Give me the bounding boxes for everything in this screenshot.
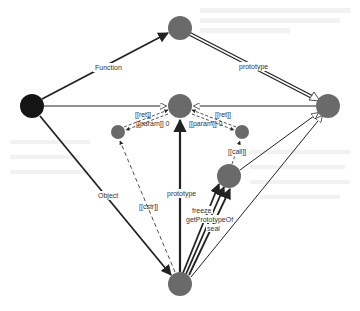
label-ret-left: [[ret]] [135, 111, 151, 119]
node-global [20, 94, 44, 118]
node-call [217, 164, 241, 188]
label-freeze: freeze [192, 207, 212, 214]
label-ret-right: [[ret]] [215, 111, 231, 119]
label-object: Object [98, 192, 118, 200]
label-param-left: [[param]] 0 [136, 120, 170, 128]
label-prototype-top: prototype [239, 63, 268, 71]
node-object-prototype [316, 94, 340, 118]
label-function: Function [95, 64, 122, 71]
node-object-constructor [168, 272, 192, 296]
node-param-right [235, 125, 249, 139]
label-param-right: [[param]] 0 [189, 120, 223, 128]
label-seal: seal [207, 225, 220, 232]
label-prototype-bottom: prototype [167, 190, 196, 198]
node-function-prototype [168, 16, 192, 40]
object-graph-diagram: Function prototype [[ret]] [[param]] 0 [… [0, 0, 360, 311]
edge-bottom-right [191, 116, 322, 277]
label-call: [[call]] [228, 148, 246, 156]
edge-call-right [240, 113, 318, 170]
node-param-left [111, 125, 125, 139]
label-getprototypeof: getPrototypeOf [186, 216, 233, 224]
label-cstr: [[cstr]] [139, 203, 158, 211]
node-function-instance [168, 94, 192, 118]
